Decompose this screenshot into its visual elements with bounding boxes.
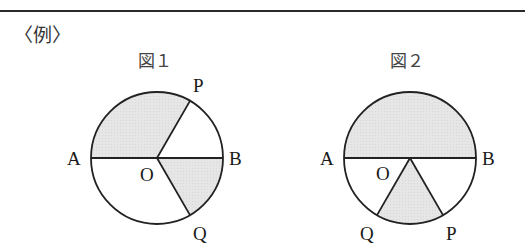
figure-1: A B O P Q — [67, 75, 242, 244]
figure-2-label-A: A — [320, 148, 334, 169]
figure-1-label-A: A — [67, 148, 81, 169]
figure-2-label-O: O — [376, 163, 390, 184]
figure-1-shaded-sector-BOQ — [157, 158, 223, 215]
figure-2-shaded-semicircle — [344, 92, 476, 158]
figure-1-label-O: O — [140, 164, 154, 185]
diagram-canvas: A B O P Q A B O Q P — [0, 0, 525, 251]
figure-2-label-P: P — [446, 223, 457, 244]
figure-1-label-B: B — [229, 148, 242, 169]
figure-2-label-B: B — [482, 148, 495, 169]
figure-2-label-Q: Q — [360, 223, 374, 244]
figure-1-label-P: P — [193, 75, 204, 96]
figure-2: A B O Q P — [320, 92, 495, 244]
figure-1-label-Q: Q — [193, 223, 207, 244]
